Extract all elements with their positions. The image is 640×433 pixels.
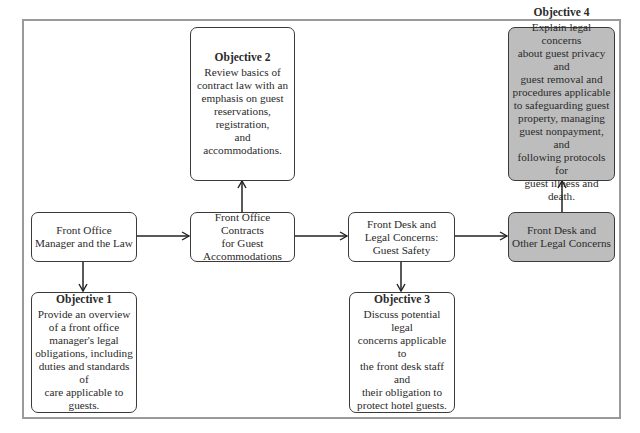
topic-front-desk-other-legal-concerns: Front Desk and Other Legal Concerns bbox=[508, 212, 615, 262]
objective-3-box: Objective 3 Discuss potential legal conc… bbox=[349, 292, 455, 413]
objective-title: Objective 3 bbox=[374, 293, 430, 306]
topic-label: Front Desk and Other Legal Concerns bbox=[512, 224, 611, 250]
topic-front-office-manager-and-law: Front Office Manager and the Law bbox=[31, 212, 137, 262]
topic-front-desk-guest-safety: Front Desk and Legal Concerns: Guest Saf… bbox=[348, 212, 455, 262]
objective-1-box: Objective 1 Provide an overview of a fro… bbox=[31, 292, 137, 413]
topic-label: Front Office Contracts for Guest Accommo… bbox=[194, 211, 291, 263]
objective-text: Provide an overview of a front office ma… bbox=[35, 308, 133, 412]
objective-title: Objective 2 bbox=[215, 51, 271, 64]
topic-label: Front Desk and Legal Concerns: Guest Saf… bbox=[365, 218, 439, 257]
objective-text: Review basics of contract law with an em… bbox=[194, 66, 291, 157]
objective-4-box: Objective 4 Explain legal concerns about… bbox=[508, 27, 615, 181]
objective-2-box: Objective 2 Review basics of contract la… bbox=[190, 27, 295, 181]
objective-title: Objective 4 bbox=[534, 6, 590, 19]
objective-text: Explain legal concerns about guest priva… bbox=[512, 21, 611, 203]
topic-label: Front Office Manager and the Law bbox=[35, 224, 133, 250]
objective-text: Discuss potential legal concerns applica… bbox=[353, 308, 451, 412]
objective-title: Objective 1 bbox=[56, 293, 112, 306]
topic-front-office-contracts: Front Office Contracts for Guest Accommo… bbox=[190, 212, 295, 262]
